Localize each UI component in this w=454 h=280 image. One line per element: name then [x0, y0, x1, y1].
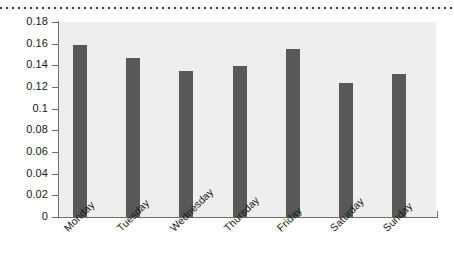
x-axis-spine [58, 217, 438, 218]
y-axis-tick [52, 65, 58, 66]
y-axis-tick [52, 109, 58, 110]
bar-wednesday[interactable] [179, 71, 193, 217]
bar-thursday[interactable] [233, 66, 247, 217]
y-axis-tick-label: 0.14 [26, 59, 48, 70]
y-axis-tick-label: 0.04 [26, 168, 48, 179]
y-axis-tick-label: 0.12 [26, 81, 48, 92]
y-axis-tick [52, 152, 58, 153]
y-axis-tick [52, 130, 58, 131]
y-axis-tick-label: 0.08 [26, 124, 48, 135]
y-axis-tick [52, 22, 58, 23]
screenshot-root: 00.020.040.060.080.10.120.140.160.18 Mon… [0, 0, 454, 280]
bar-sunday[interactable] [392, 74, 406, 217]
plot-area [59, 22, 436, 217]
bar-chart: 00.020.040.060.080.10.120.140.160.18 Mon… [0, 0, 454, 280]
x-axis-end-tick [437, 211, 438, 218]
y-axis-tick-label: 0.1 [32, 103, 48, 114]
y-axis-tick-label: 0.02 [26, 189, 48, 200]
y-axis-spine [58, 21, 59, 218]
bar-friday[interactable] [286, 49, 300, 217]
bar-saturday[interactable] [339, 83, 353, 217]
bar-monday[interactable] [73, 45, 87, 217]
y-axis-tick [52, 87, 58, 88]
y-axis-tick-label: 0.06 [26, 146, 48, 157]
y-axis-tick-label: 0 [42, 211, 48, 222]
y-axis-tick [52, 195, 58, 196]
y-axis-tick [52, 174, 58, 175]
y-axis-tick [52, 217, 58, 218]
y-axis-tick [52, 44, 58, 45]
y-axis-tick-label: 0.16 [26, 38, 48, 49]
bar-tuesday[interactable] [126, 58, 140, 217]
y-axis-tick-label: 0.18 [26, 16, 48, 27]
